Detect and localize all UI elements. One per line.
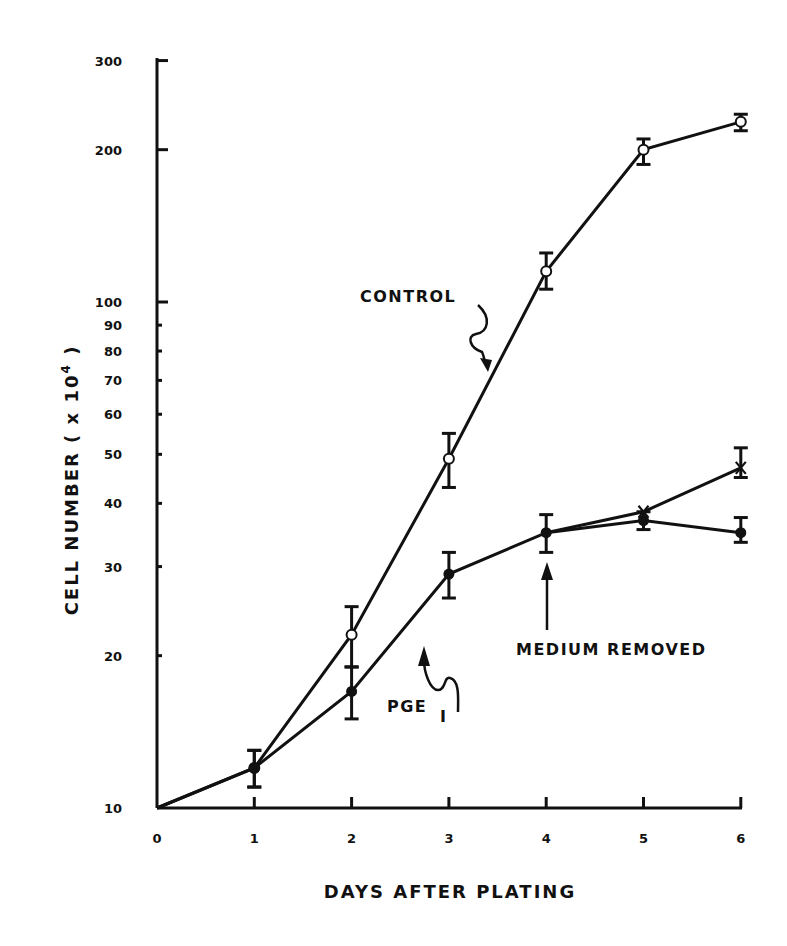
series-control [157, 114, 748, 808]
x-tick-label: 0 [152, 831, 161, 846]
y-tick-label: 90 [104, 318, 122, 333]
data-series [157, 114, 748, 808]
y-tick-label: 30 [104, 560, 122, 575]
y-tick-label: 50 [104, 447, 122, 462]
filled-circle-marker-icon [346, 686, 357, 697]
y-axis-title-end: ) [61, 345, 82, 364]
x-tick-label: 1 [250, 831, 259, 846]
open-circle-marker-icon [541, 266, 551, 276]
pge1-subscript: I [440, 707, 447, 726]
y-tick-label: 40 [104, 496, 122, 511]
pge1-label: PGE [387, 697, 427, 716]
medium-removed-label: MEDIUM REMOVED [516, 640, 707, 659]
open-circle-marker-icon [347, 630, 357, 640]
y-tick-label: 100 [95, 295, 122, 310]
y-tick-label: 200 [95, 143, 122, 158]
series-pge1 [157, 512, 748, 808]
cell-growth-chart: 102030405060708090100200300 0123456 DAYS… [0, 0, 787, 946]
y-tick-label: 60 [104, 407, 122, 422]
x-tick-label: 3 [444, 831, 453, 846]
y-tick-label: 70 [104, 373, 122, 388]
y-tick-label: 80 [104, 344, 122, 359]
control-arrowhead-icon [480, 358, 492, 372]
y-tick-label: 10 [104, 801, 122, 816]
filled-circle-marker-icon [443, 569, 454, 580]
y-tick-label: 20 [104, 649, 122, 664]
pge1-curly-arrow-icon [424, 660, 458, 712]
open-circle-marker-icon [736, 117, 746, 127]
svg-text:CELL NUMBER ( x 104 ): CELL NUMBER ( x 104 ) [59, 345, 82, 616]
control-curly-arrow-icon [470, 305, 487, 364]
control-label: CONTROL [360, 287, 456, 306]
open-circle-marker-icon [444, 454, 454, 464]
x-tick-label: 2 [347, 831, 356, 846]
filled-circle-marker-icon [249, 762, 260, 773]
x-tick-label: 4 [542, 831, 551, 846]
x-tick-label: 6 [736, 831, 745, 846]
y-tick-label: 300 [95, 54, 122, 69]
open-circle-marker-icon [639, 145, 649, 155]
y-axis-title-sup: 4 [59, 363, 73, 373]
x-axis-title: DAYS AFTER PLATING [324, 881, 576, 902]
x-ticks: 0123456 [152, 797, 745, 846]
x-tick-label: 5 [639, 831, 648, 846]
pge1-arrowhead-icon [418, 646, 430, 666]
y-axis-title: CELL NUMBER ( x 104 ) [59, 345, 82, 616]
y-axis-title-main: CELL NUMBER ( x 10 [61, 373, 82, 615]
filled-circle-marker-icon [735, 527, 746, 538]
medium-removed-arrowhead-icon [541, 562, 553, 580]
